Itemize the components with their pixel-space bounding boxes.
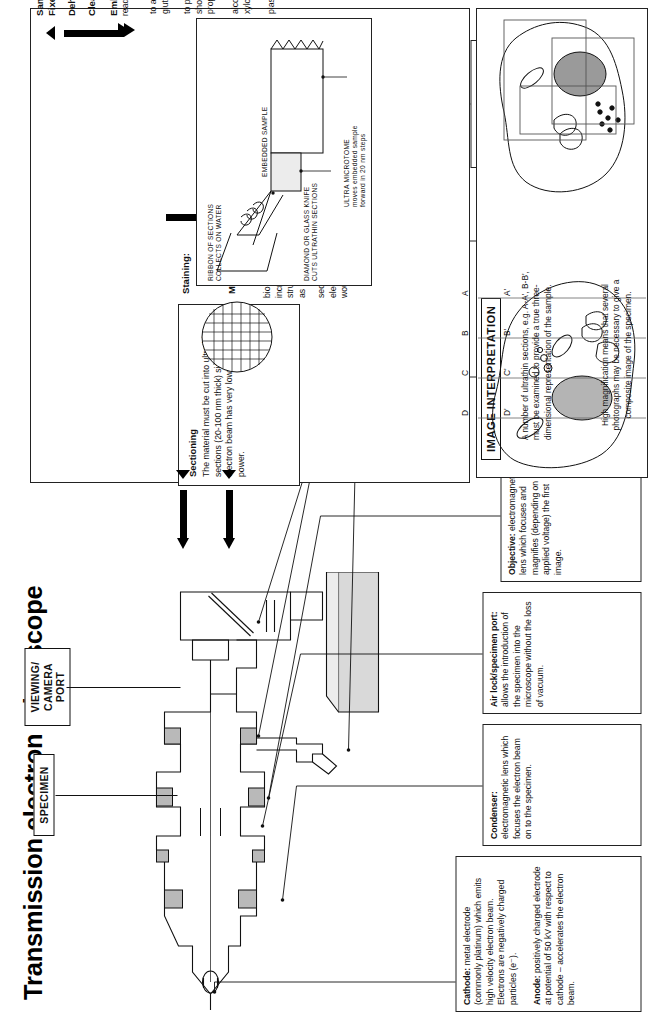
prep-step-3-sub: ready for — [120, 0, 130, 16]
caption-cuts-ultrathin: CUTS ULTRATHIN SECTIONS — [311, 111, 318, 281]
arrow-to-mounting-icon — [222, 470, 236, 479]
arrow-to-staining-icon — [176, 470, 190, 479]
prep-step-2-label: Cleared: — [86, 0, 97, 16]
plane-label-A: A — [460, 290, 470, 296]
prep-step-0-sub: Fixed: — [46, 0, 57, 16]
microtome-inset: ULTRA MICROTOME moves embedded sample fo… — [196, 18, 372, 286]
prep-step-3-label: Embedded: — [108, 0, 119, 16]
staining-arrow — [180, 490, 187, 538]
caption-diamond-knife: DIAMOND OR GLASS KNIFE — [303, 111, 310, 281]
plane-label-B-prime: B' — [502, 329, 512, 336]
prep-arrow-2-shaft — [84, 30, 118, 37]
staining-arrow-head-icon — [177, 538, 189, 549]
mounting-arrow — [226, 490, 233, 538]
poster-page: Transmission electron microscope — [0, 0, 655, 1022]
caption-ultra-microtome-line2: moves embedded sample — [351, 37, 359, 207]
composite-cell-diagram — [476, 8, 648, 208]
sectioning-heading: Sectioning — [187, 309, 198, 477]
caption-ribbon-collects: COLLECTS ON WATER — [215, 111, 222, 281]
plane-label-A-prime: A' — [502, 289, 512, 296]
composite-image-area — [476, 8, 648, 208]
caption-ultra-microtome-line3: forward in 20 nm steps — [359, 37, 367, 207]
plane-label-B: B — [460, 330, 470, 336]
copper-grid-icon — [200, 300, 274, 374]
interpretation-note-right: High magnification means that several ph… — [600, 260, 655, 450]
prep-arrow-2-icon — [118, 23, 129, 37]
plane-label-C: C — [460, 370, 470, 376]
caption-ultra-microtome: ULTRA MICROTOME — [343, 37, 351, 207]
plane-label-D-prime: D' — [502, 408, 512, 416]
prep-paragraph-3: plastic or resin is used to support the … — [266, 0, 352, 14]
poster-overlay: Sample is Fixed: Dehydrated: Cleared: Em… — [0, 0, 655, 1022]
prep-step-1-label: Dehydrated: — [66, 0, 77, 16]
caption-ribbon-of-sections: RIBBON OF SECTIONS — [207, 111, 214, 281]
staining-label: Staining: — [180, 174, 191, 294]
caption-embedded-sample: EMBEDDED SAMPLE — [261, 7, 268, 177]
interpretation-note-left: A number of ultrathin sections, e.g. A-A… — [520, 264, 584, 440]
plane-label-D: D — [460, 410, 470, 416]
prep-step-0-label: Sample is — [34, 0, 45, 16]
mounting-arrow-head-icon — [223, 538, 235, 549]
plane-label-C-prime: C' — [502, 368, 512, 376]
prep-arrow-0-icon — [46, 26, 55, 40]
